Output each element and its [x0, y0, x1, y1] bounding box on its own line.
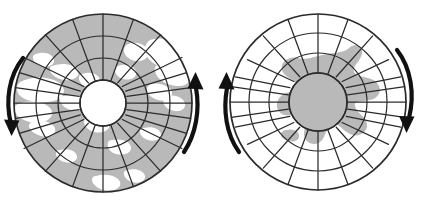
arctic-diagram [0, 0, 214, 201]
antarctic-pole-center [290, 74, 347, 131]
panel-antarctic [214, 0, 428, 201]
panel-arctic [0, 0, 214, 201]
figure-root: Polar sea ice extent comparison Arctic p… [0, 0, 428, 201]
antarctic-diagram [214, 0, 428, 201]
arctic-pole-center [81, 81, 125, 125]
